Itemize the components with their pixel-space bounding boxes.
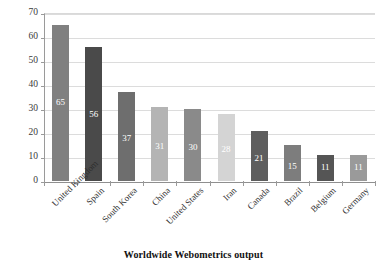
y-axis-tick-label: 40 (12, 80, 38, 90)
bar-slot: 31 (143, 13, 176, 181)
category-label-united-kingdom: United Kingdom (51, 186, 73, 208)
bar-slot: 11 (342, 13, 375, 181)
bar-value-label: 11 (350, 163, 367, 172)
bar-value-label: 15 (284, 162, 301, 171)
bar-value-label: 28 (218, 145, 235, 154)
bar-value-label: 37 (118, 134, 135, 143)
y-axis-tick-label: 0 (12, 176, 38, 186)
bar-slot: 65 (44, 13, 77, 181)
y-axis-tick-label: 20 (12, 128, 38, 138)
bar: 11 (317, 155, 334, 181)
bar-slot: 28 (209, 13, 242, 181)
y-axis-tick-label: 70 (12, 8, 38, 18)
bar-series: 65563731302821151111 (44, 13, 375, 181)
bar-chart: 706050403020100 65563731302821151111 Uni… (0, 0, 387, 269)
bar: 21 (251, 131, 268, 181)
bar-value-label: 65 (52, 98, 69, 107)
bar: 11 (350, 155, 367, 181)
bar: 15 (284, 145, 301, 181)
bar-value-label: 30 (184, 143, 201, 152)
bar: 28 (218, 114, 235, 181)
y-axis-tick-label: 50 (12, 56, 38, 66)
y-axis-tick-label: 10 (12, 152, 38, 162)
bar-value-label: 56 (85, 110, 102, 119)
bar: 30 (184, 109, 201, 181)
chart-caption: Worldwide Webometrics output (0, 249, 387, 260)
x-tick-mark (375, 181, 376, 186)
bar-value-label: 31 (151, 142, 168, 151)
bar: 31 (151, 107, 168, 181)
bar: 65 (52, 25, 69, 181)
bar-slot: 37 (110, 13, 143, 181)
bar-value-label: 11 (317, 163, 334, 172)
bar: 37 (118, 92, 135, 181)
category-label-south-korea: South Korea (70, 186, 139, 255)
bar-slot: 11 (309, 13, 342, 181)
x-axis-category-labels: United KingdomSpainSouth KoreaChinaUnite… (44, 184, 375, 242)
bar-slot: 15 (276, 13, 309, 181)
bar-slot: 30 (176, 13, 209, 181)
bar-slot: 56 (77, 13, 110, 181)
bar-value-label: 21 (251, 154, 268, 163)
y-axis-tick-label: 30 (12, 104, 38, 114)
y-axis-tick-label: 60 (12, 32, 38, 42)
bar-slot: 21 (243, 13, 276, 181)
